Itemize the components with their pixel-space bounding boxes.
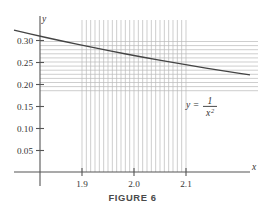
curve-y-equals-one-over-x-squared (14, 30, 250, 75)
y-tick-label-025: 0.25 (17, 58, 33, 68)
equation-annotation: y = 1 x 2 (185, 95, 217, 118)
x-tick-label-19: 1.9 (76, 179, 88, 189)
figure-container: 0.30 0.25 0.20 0.15 0.10 0.05 1.9 2.0 2.… (0, 0, 265, 214)
figure-caption: FIGURE 6 (0, 192, 265, 203)
equation-denominator-exponent: 2 (211, 107, 215, 114)
y-tick-label-030: 0.30 (17, 36, 33, 46)
equation-numerator: 1 (208, 95, 213, 106)
y-tick-label-020: 0.20 (17, 80, 33, 90)
y-tick-label-015: 0.15 (17, 102, 33, 112)
y-tick-label-010: 0.10 (17, 124, 33, 134)
equation-lhs: y = (185, 99, 199, 110)
x-axis-label: x (251, 162, 257, 172)
x-tick-label-20: 2.0 (128, 179, 140, 189)
y-tick-label-005: 0.05 (17, 146, 33, 156)
horizontal-gridlines (40, 42, 258, 91)
y-axis-label: y (41, 14, 47, 24)
graph-canvas: 0.30 0.25 0.20 0.15 0.10 0.05 1.9 2.0 2.… (0, 0, 265, 214)
x-tick-label-21: 2.1 (180, 179, 192, 189)
vertical-gridlines (82, 20, 186, 172)
